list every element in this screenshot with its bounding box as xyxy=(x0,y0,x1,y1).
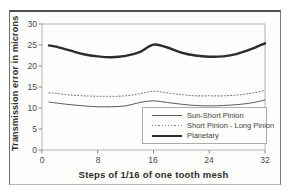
legend-item-short-long-pinion: Short Pinion - Long Pinion xyxy=(152,120,264,130)
legend-item-sun-short-pinion: Sun-Short Pinion xyxy=(152,110,264,120)
thick-solid-line-swatch xyxy=(152,135,182,137)
legend-label: Sun-Short Pinion xyxy=(187,111,244,120)
legend-item-planetary: Planetary xyxy=(152,131,264,141)
x-tick-label: 32 xyxy=(253,155,277,165)
x-tick-label: 16 xyxy=(141,155,165,165)
dotted-line-swatch xyxy=(152,125,182,127)
legend: Sun-Short Pinion Short Pinion - Long Pin… xyxy=(142,107,267,144)
y-axis-title: Transmission error in microns xyxy=(10,24,20,151)
x-tick-label: 8 xyxy=(86,155,110,165)
thin-solid-line-swatch xyxy=(152,115,182,116)
legend-label: Planetary xyxy=(187,131,219,140)
legend-label: Short Pinion - Long Pinion xyxy=(187,121,274,130)
x-axis-title: Steps of 1/16 of one tooth mesh xyxy=(42,169,265,180)
x-tick-label: 0 xyxy=(30,155,54,165)
x-tick-label: 24 xyxy=(197,155,221,165)
